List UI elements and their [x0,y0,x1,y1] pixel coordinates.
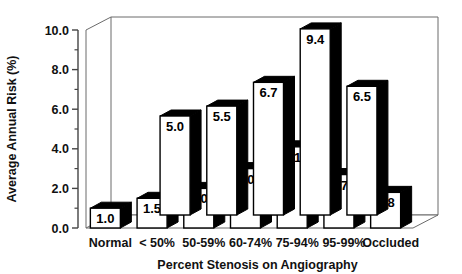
bar-side-face [284,76,295,215]
y-axis-tick-label: 8.0 [52,63,69,77]
y-axis-tick-label: 10.0 [45,24,69,38]
bar-front-face [254,82,284,215]
x-axis-category-label: Occluded [362,236,419,250]
bar-front-0: 1.0 [90,202,131,228]
bar-value-label: 9.4 [306,32,325,47]
bar-side-face [330,23,341,215]
chart-container: 0.02.04.06.08.010.0Average Annual Risk (… [0,0,462,274]
bar-back-3: 6.7 [254,76,295,215]
bar-front-face [347,86,377,215]
y-axis-title: Average Annual Risk (%) [5,55,19,202]
bar-value-label: 1.0 [96,211,114,226]
x-axis-category-label: < 50% [139,236,175,250]
bar-back-4: 9.4 [300,23,341,215]
bar-value-label: 1.5 [143,201,161,216]
bar-side-face [377,80,388,215]
x-axis-category-label: 75-94% [276,236,319,250]
y-axis-tick-label: 0.0 [52,222,69,236]
y-axis-tick-label: 4.0 [52,142,69,156]
y-axis-tick-label: 2.0 [52,182,69,196]
bar-front-face [300,29,330,215]
bar-back-5: 6.5 [347,80,388,215]
bar-back-1: 5.0 [160,110,201,215]
x-axis-category-label: 50-59% [182,236,225,250]
x-axis-title: Percent Stenosis on Angiography [157,258,357,272]
plot-top-left-edge [86,17,111,30]
x-axis-category-label: 95-99% [322,236,365,250]
bar-side-face [237,100,248,215]
bar-back-2: 5.5 [207,100,248,215]
bar-side-face [401,186,412,228]
x-axis-category-label: Normal [89,236,132,250]
bar-value-label: 5.5 [213,109,231,124]
y-axis-tick-label: 6.0 [52,103,69,117]
bar-side-face [190,110,201,215]
bar-chart-3d: 0.02.04.06.08.010.0Average Annual Risk (… [0,0,462,274]
bar-value-label: 6.5 [353,89,371,104]
bar-value-label: 6.7 [259,85,277,100]
x-axis-category-label: 60-74% [229,236,272,250]
bar-value-label: 5.0 [166,119,184,134]
